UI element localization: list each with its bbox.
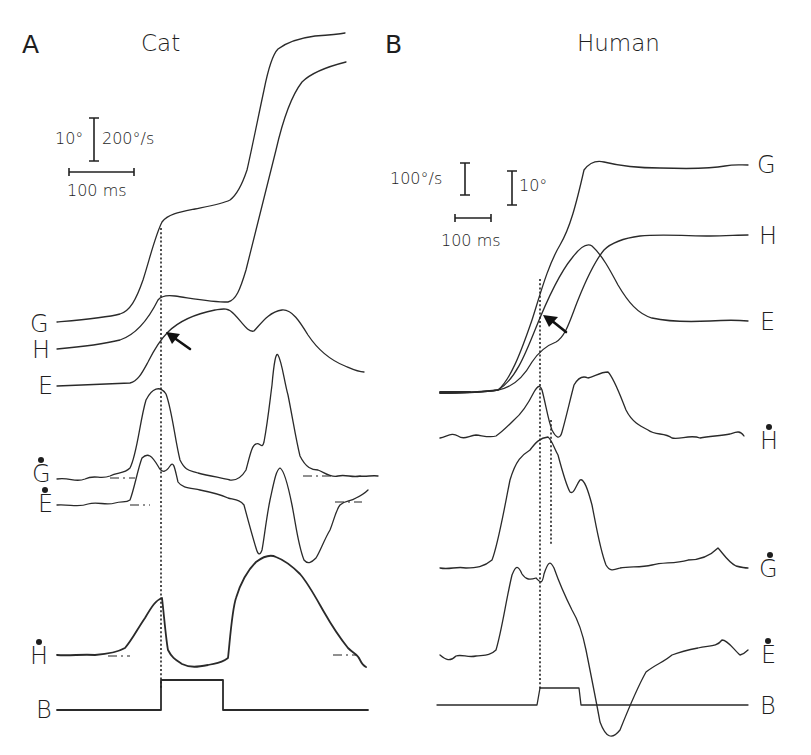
cat-label-g: G [30, 312, 49, 336]
cat-arrow-icon [166, 332, 190, 349]
cat-label-edot: E [38, 492, 53, 516]
human-position-scale-label: 10° [519, 178, 547, 194]
cat-trace-g [57, 33, 345, 322]
cat-position-scale-label: 10° [55, 131, 83, 147]
cat-label-b: B [36, 698, 52, 722]
cat-label-hdot: H [30, 644, 48, 668]
human-label-h: H [759, 224, 777, 248]
panel-b-title: Human [577, 32, 660, 55]
cat-velocity-scale-label: 200°/s [102, 131, 154, 147]
human-trace-e [440, 245, 748, 393]
human-trace-gdot [440, 437, 748, 570]
human-trace-hdot [440, 372, 744, 438]
human-time-scale-bar [455, 214, 491, 222]
human-time-scale-label: 100 ms [441, 233, 501, 249]
human-position-scale-bar [507, 171, 517, 205]
human-velocity-scale-bar [460, 163, 470, 195]
human-trace-g [440, 161, 748, 393]
cat-time-scale-label: 100 ms [67, 183, 127, 199]
panel-a-title: Cat [141, 32, 180, 55]
cat-trace-b [57, 680, 368, 710]
human-velocity-scale-label: 100°/s [390, 171, 442, 187]
panel-a-letter: A [22, 32, 39, 57]
human-trace-b [437, 688, 748, 705]
cat-label-h: H [32, 338, 50, 362]
cat-label-e: E [38, 374, 53, 398]
human-label-edot: E [761, 643, 776, 667]
human-label-e: E [760, 310, 775, 334]
cat-time-scale-bar [69, 168, 134, 176]
panel-b-letter: B [385, 32, 402, 57]
human-label-b: B [760, 694, 776, 718]
cat-label-gdot: G [32, 462, 51, 486]
cat-trace-gdot [57, 354, 378, 480]
cat-trace-hdot [57, 556, 366, 667]
human-arrow-icon [543, 315, 566, 332]
cat-trace-h [57, 62, 346, 349]
human-trace-edot [440, 563, 748, 736]
cat-vertical-scale-bar [89, 118, 99, 161]
figure: A Cat 10° 200°/s 100 ms G H E G E H B B … [0, 0, 811, 755]
human-label-gdot: G [759, 557, 778, 581]
human-label-hdot: H [760, 429, 778, 453]
human-label-g: G [757, 153, 776, 177]
human-trace-h [440, 235, 748, 393]
trace-plot-area [0, 0, 811, 755]
cat-trace-e [57, 309, 364, 386]
